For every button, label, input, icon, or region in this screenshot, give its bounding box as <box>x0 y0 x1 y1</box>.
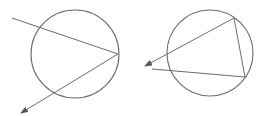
arrow-line <box>145 18 234 66</box>
figures-group <box>12 10 253 113</box>
diagram-canvas <box>0 0 265 116</box>
chord-line <box>234 18 245 77</box>
arrow-line <box>21 54 118 113</box>
circle <box>31 10 119 98</box>
right-figure <box>145 10 253 96</box>
secant-line <box>152 69 245 77</box>
diagram-svg <box>0 0 265 116</box>
secant-line <box>12 18 118 54</box>
left-figure <box>12 10 119 113</box>
